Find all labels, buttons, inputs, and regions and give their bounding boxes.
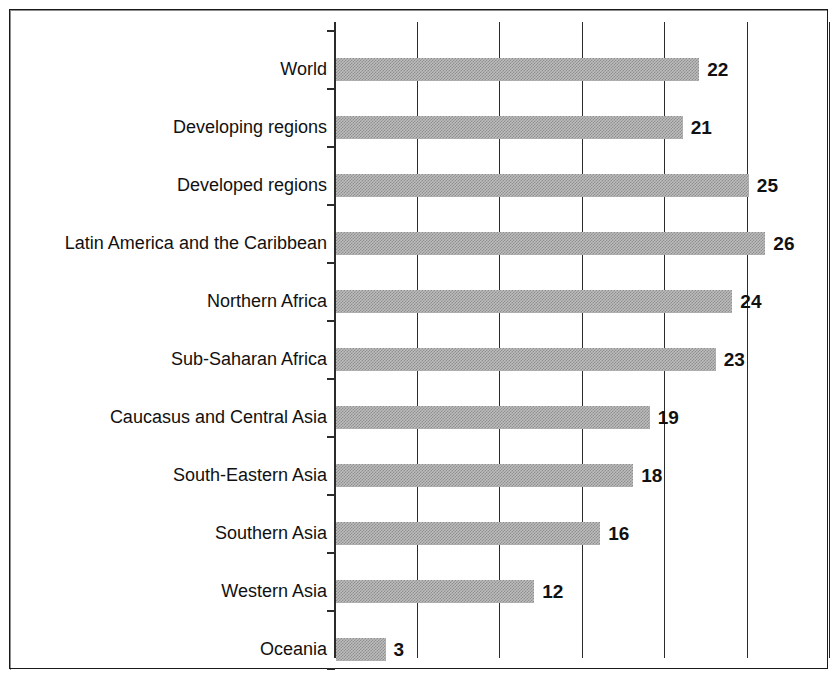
bar-row: 16 [334, 505, 836, 563]
bar-value-label: 19 [658, 406, 679, 429]
category-label-row: World [0, 41, 327, 99]
category-label: South-Eastern Asia [173, 464, 327, 487]
bar-row: 12 [334, 563, 836, 621]
bar[interactable] [336, 174, 749, 197]
bar-value-label: 16 [608, 522, 629, 545]
bar[interactable] [336, 116, 683, 139]
bar[interactable] [336, 638, 386, 661]
bar-row: 26 [334, 215, 836, 273]
category-label: Western Asia [221, 580, 327, 603]
bar-value-label: 3 [394, 638, 405, 661]
bar-value-label: 24 [740, 290, 761, 313]
bar-value-label: 23 [724, 348, 745, 371]
bar-value-label: 12 [542, 580, 563, 603]
category-label: World [280, 58, 327, 81]
bar-row: 18 [334, 447, 836, 505]
category-label-row: Oceania [0, 621, 327, 674]
bar-value-label: 22 [707, 58, 728, 81]
category-label-row: Northern Africa [0, 273, 327, 331]
plot-area: 222125262423191816123 [334, 22, 836, 658]
bar-value-label: 25 [757, 174, 778, 197]
category-label: Latin America and the Caribbean [65, 232, 327, 255]
category-label-row: Southern Asia [0, 505, 327, 563]
category-label-row: Developing regions [0, 99, 327, 157]
bar[interactable] [336, 464, 633, 487]
category-label: Northern Africa [207, 290, 327, 313]
bar-row: 22 [334, 41, 836, 99]
category-label: Developing regions [173, 116, 327, 139]
category-label: Developed regions [177, 174, 327, 197]
category-label-row: Developed regions [0, 157, 327, 215]
category-label-row: Caucasus and Central Asia [0, 389, 327, 447]
bar[interactable] [336, 580, 534, 603]
bar[interactable] [336, 522, 600, 545]
bar[interactable] [336, 58, 699, 81]
category-label: Caucasus and Central Asia [110, 406, 327, 429]
bar-row: 23 [334, 331, 836, 389]
bar-row: 19 [334, 389, 836, 447]
category-label: Sub-Saharan Africa [171, 348, 327, 371]
category-label: Southern Asia [215, 522, 327, 545]
category-label-row: Latin America and the Caribbean [0, 215, 327, 273]
category-label-row: South-Eastern Asia [0, 447, 327, 505]
category-label: Oceania [260, 638, 327, 661]
bar[interactable] [336, 406, 650, 429]
bar[interactable] [336, 232, 765, 255]
bar-value-label: 21 [691, 116, 712, 139]
bar-row: 24 [334, 273, 836, 331]
bar[interactable] [336, 290, 732, 313]
bar-value-label: 26 [773, 232, 794, 255]
category-label-row: Sub-Saharan Africa [0, 331, 327, 389]
y-axis-tick [327, 30, 335, 32]
bar[interactable] [336, 348, 716, 371]
bar-row: 21 [334, 99, 836, 157]
bar-row: 25 [334, 157, 836, 215]
category-label-row: Western Asia [0, 563, 327, 621]
bar-row: 3 [334, 621, 836, 674]
bar-value-label: 18 [641, 464, 662, 487]
